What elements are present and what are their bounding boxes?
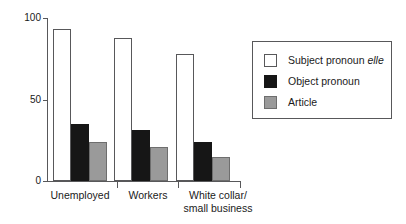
legend-label-subject-pronoun: Subject pronoun elle	[288, 54, 384, 66]
y-tick-label-0: 0	[15, 176, 41, 186]
y-tick-label-100-wrap: 100	[10, 13, 41, 23]
y-tick-label-50: 50	[15, 95, 41, 105]
bar-chart: 100 50 0 Unemployed Workers White collar…	[0, 0, 406, 224]
y-tick-100	[43, 18, 48, 19]
legend-label-object-pronoun: Object pronoun	[288, 75, 360, 87]
bar-unemployed-object-pronoun	[71, 124, 89, 181]
x-tick-3	[240, 182, 241, 188]
bar-workers-article	[150, 147, 168, 181]
y-tick-label-100: 100	[15, 13, 41, 23]
category-label-white-collar: White collar/ small business	[163, 189, 273, 214]
y-tick-label-50-wrap: 50	[10, 95, 41, 105]
legend: Subject pronoun elle Object pronoun Arti…	[252, 41, 392, 119]
legend-swatch-white-icon	[264, 54, 277, 67]
legend-swatch-gray-icon	[264, 96, 277, 109]
legend-label-article: Article	[288, 96, 317, 108]
bar-white-collar-object-pronoun	[194, 142, 212, 181]
x-tick-2	[178, 182, 179, 188]
bar-white-collar-article	[212, 157, 230, 181]
y-tick-label-0-wrap: 0	[10, 176, 41, 186]
bar-white-collar-subject-pronoun	[176, 54, 194, 181]
x-tick-1	[117, 182, 118, 188]
bar-workers-object-pronoun	[132, 130, 150, 181]
legend-item-object-pronoun: Object pronoun	[264, 74, 360, 88]
legend-item-article: Article	[264, 95, 317, 109]
legend-item-subject-pronoun: Subject pronoun elle	[264, 53, 384, 67]
x-axis-line	[47, 181, 241, 182]
bar-unemployed-subject-pronoun	[53, 29, 71, 181]
y-tick-50	[43, 100, 48, 101]
legend-swatch-black-icon	[264, 75, 277, 88]
bar-workers-subject-pronoun	[114, 38, 132, 181]
y-tick-0	[43, 181, 48, 182]
bar-unemployed-article	[89, 142, 107, 181]
